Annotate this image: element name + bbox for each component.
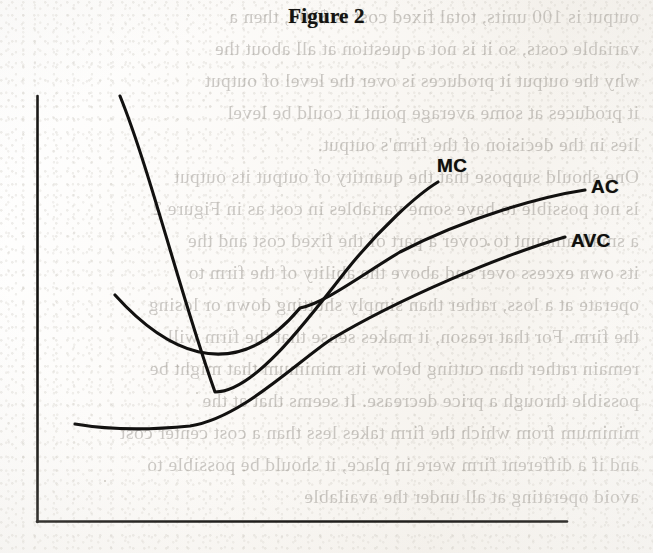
curves-group [75, 96, 585, 429]
scanned-page: output is 100 units, total fixed cost is… [0, 0, 653, 553]
scan-speck [104, 480, 106, 482]
avc-curve-label: AVC [571, 230, 611, 252]
avc-curve [75, 237, 565, 429]
scan-speck [196, 392, 198, 394]
scan-speck [612, 121, 614, 123]
scan-speck [487, 243, 490, 246]
mc-curve [120, 96, 438, 392]
cost-curve-chart [0, 0, 653, 553]
ac-curve-label: AC [591, 176, 619, 198]
mc-curve-label: MC [437, 155, 467, 177]
